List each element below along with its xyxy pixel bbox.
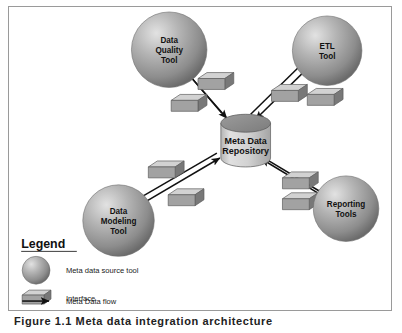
interface-box [148,161,184,178]
diagram-frame: Meta Data Repository Data Quality Tool E… [8,6,392,311]
figure-caption: Figure 1.1 Meta data integration archite… [14,315,394,327]
interface-box-icon [22,290,51,304]
data-modeling-tool-node[interactable]: Data Modeling Tool [83,185,155,257]
meta-data-repository-node[interactable]: Meta Data Repository [221,114,271,167]
etl-tool-node[interactable]: ETL Tool [292,16,362,86]
interface-box [272,84,308,101]
data-quality-tool-node[interactable]: Data Quality Tool [131,12,207,88]
legend-item-sphere: Meta data source tool [22,256,139,284]
legend-label-sphere: Meta data source tool [66,266,139,275]
interface-box [307,88,343,105]
legend-label-arrow: Meta Data flow [66,297,117,306]
interface-box [171,94,207,111]
legend-heading: Legend [21,237,65,251]
interface-box [282,193,318,210]
interface-box [198,73,234,90]
diagram-canvas: Meta Data Repository Data Quality Tool E… [9,7,391,310]
reporting-tools-node[interactable]: Reporting Tools [313,176,379,242]
interface-box [168,189,204,206]
sphere-icon [22,256,50,284]
interface-box [282,172,318,189]
figure-container: Meta Data Repository Data Quality Tool E… [0,0,402,333]
